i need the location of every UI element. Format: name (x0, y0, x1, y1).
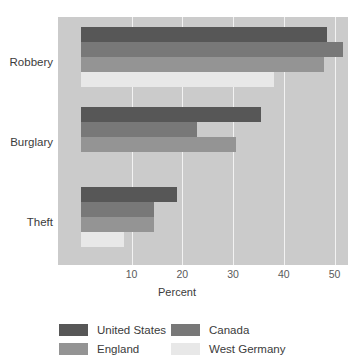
x-axis-title: Percent (0, 286, 354, 298)
legend-label: Canada (209, 324, 249, 336)
bar-robbery-england (81, 57, 325, 72)
bar-theft-england (81, 217, 154, 232)
bar-theft-west-germany (81, 232, 124, 247)
bar-robbery-united-states (81, 27, 327, 42)
x-tick-label-40: 40 (269, 268, 299, 280)
legend-swatch-icon (59, 324, 88, 336)
bar-burglary-canada (81, 122, 197, 137)
bar-robbery-west-germany (81, 72, 274, 87)
bar-theft-united-states (81, 187, 177, 202)
x-tick-label-50: 50 (320, 268, 350, 280)
legend-label: West Germany (209, 343, 285, 355)
legend-swatch-icon (59, 343, 88, 355)
legend-item-united-states: United States (59, 324, 171, 336)
legend-row: United States Canada (59, 320, 329, 339)
legend-label: United States (97, 324, 166, 336)
bar-robbery-canada (81, 42, 343, 57)
bar-burglary-england (81, 137, 236, 152)
legend-swatch-icon (171, 324, 200, 336)
x-tick-label-30: 30 (218, 268, 248, 280)
legend-item-england: England (59, 343, 171, 355)
legend-label: England (97, 343, 139, 355)
y-axis-label-robbery: Robbery (0, 56, 53, 68)
y-axis-label-burglary: Burglary (0, 136, 53, 148)
legend-item-west-germany: West Germany (171, 343, 321, 355)
plot-area (58, 17, 348, 265)
legend-swatch-icon (171, 343, 200, 355)
legend-item-canada: Canada (171, 324, 321, 336)
bar-theft-canada (81, 202, 155, 217)
legend: United States Canada England West German… (59, 320, 329, 358)
y-axis-label-theft: Theft (0, 216, 53, 228)
legend-row: England West Germany (59, 339, 329, 358)
bar-burglary-united-states (81, 107, 261, 122)
bar-chart: Robbery Burglary Theft 1020304050 Percen… (0, 0, 354, 359)
x-tick-label-20: 20 (167, 268, 197, 280)
x-tick-label-10: 10 (117, 268, 147, 280)
